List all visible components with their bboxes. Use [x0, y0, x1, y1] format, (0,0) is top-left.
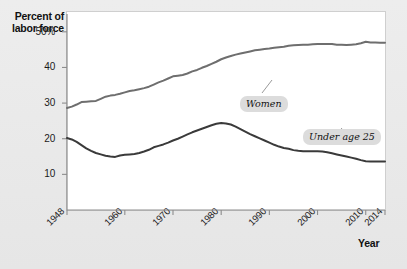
series-label-under-age-25: Under age 25: [303, 129, 381, 145]
series-line-women: [67, 42, 385, 108]
chart-figure: Percent of labor force Year 1020304050% …: [0, 0, 407, 269]
axis-lines: [67, 14, 385, 210]
series-label-women: Women: [240, 96, 288, 112]
